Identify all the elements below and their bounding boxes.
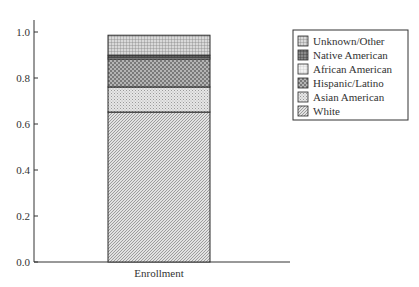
legend: Unknown/OtherNative AmericanAfrican Amer… [293,30,408,120]
bar-segment-hispanic-latino [108,59,210,87]
legend-swatch [298,106,308,116]
legend-label: White [313,105,340,117]
y-tick-label: 0.2 [16,210,30,222]
legend-swatch [298,64,308,74]
legend-label: Unknown/Other [313,35,385,47]
y-ticks: 0.00.20.40.60.81.0 [16,26,38,268]
stacked-bar-enrollment [108,35,210,262]
y-tick-label: 0.6 [16,118,30,130]
y-tick-label: 0.4 [16,164,30,176]
legend-swatch [298,50,308,60]
bar-segment-unknown-other [108,35,210,55]
legend-swatch [298,92,308,102]
stacked-bar-chart: 0.00.20.40.60.81.0 Enrollment Unknown/Ot… [0,0,419,287]
legend-label: African American [313,63,393,75]
y-tick-label: 1.0 [16,26,30,38]
x-category-label: Enrollment [134,267,184,279]
legend-swatch [298,78,308,88]
legend-swatch [298,36,308,46]
y-tick-label: 0.0 [16,256,30,268]
y-tick-label: 0.8 [16,72,30,84]
legend-label: Hispanic/Latino [313,77,384,89]
legend-label: Asian American [313,91,385,103]
legend-label: Native American [313,49,388,61]
bar-segment-white [108,112,210,262]
y-axis: 0.00.20.40.60.81.0 [16,20,38,268]
bar-segment-asian-american [108,87,210,112]
